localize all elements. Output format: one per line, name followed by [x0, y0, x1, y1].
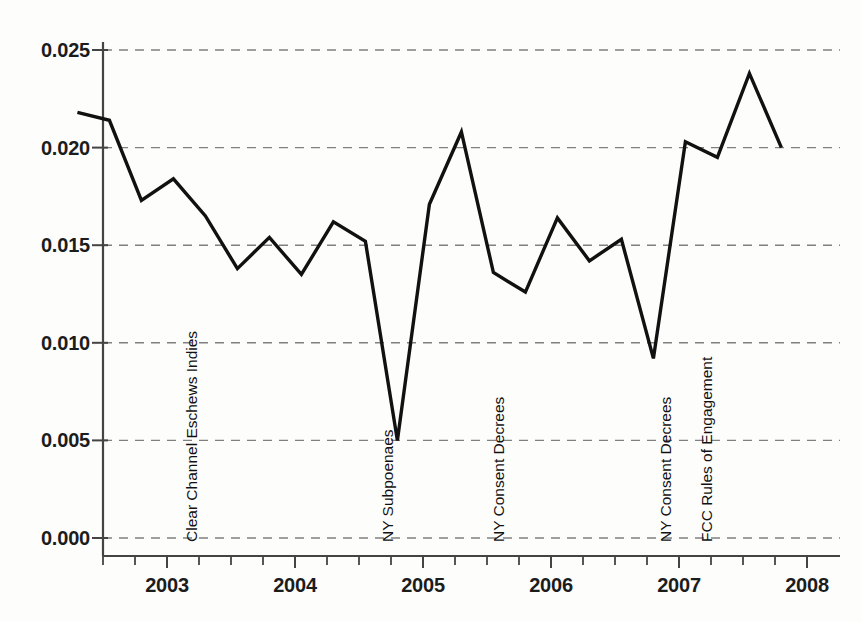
- y-tick-label-0.005: 0.005: [14, 429, 90, 452]
- x-tick-label-2007: 2007: [657, 574, 701, 597]
- line-chart-plot: [0, 0, 861, 622]
- event-label-4: FCC Rules of Engagement: [698, 357, 716, 542]
- event-label-1: NY Subpoenaes: [379, 429, 397, 542]
- y-tick-label-0.020: 0.020: [14, 136, 90, 159]
- y-tick-label-0.025: 0.025: [14, 39, 90, 62]
- event-label-0: Clear Channel Eschews Indies: [183, 331, 201, 542]
- axes-group: [103, 42, 840, 556]
- y-tick-label-0.000: 0.000: [14, 527, 90, 550]
- x-tick-label-2005: 2005: [401, 574, 445, 597]
- y-tick-label-0.015: 0.015: [14, 234, 90, 257]
- x-tick-label-2004: 2004: [273, 574, 317, 597]
- y-tick-label-0.010: 0.010: [14, 331, 90, 354]
- event-label-2: NY Consent Decrees: [490, 397, 508, 542]
- chart-figure: 0.0000.0050.0100.0150.0200.025 200320042…: [0, 0, 861, 622]
- x-tick-label-2006: 2006: [529, 574, 573, 597]
- x-tick-label-2008: 2008: [785, 574, 829, 597]
- event-label-3: NY Consent Decrees: [657, 397, 675, 542]
- x-tick-label-2003: 2003: [145, 574, 189, 597]
